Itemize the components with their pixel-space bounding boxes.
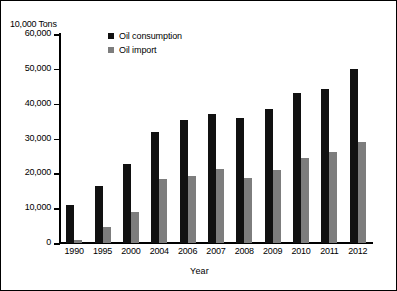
bar-group: [151, 34, 167, 243]
bar-group: [123, 34, 139, 243]
x-axis-tick-label: 2006: [175, 246, 201, 256]
x-axis-tick-label: 2004: [146, 246, 172, 256]
x-axis-tick-labels: 1990199520002004200620072008200920102011…: [60, 246, 372, 256]
x-axis-tick-label: 2000: [118, 246, 144, 256]
bar-group: [208, 34, 224, 243]
bar-group: [66, 34, 82, 243]
x-axis-tick-label: 2011: [316, 246, 342, 256]
legend-label: Oil import: [119, 45, 157, 55]
bar-group: [265, 34, 281, 243]
bar-import[interactable]: [159, 179, 167, 243]
y-axis-tick-label: 0: [46, 237, 51, 247]
bar-import[interactable]: [216, 169, 224, 243]
x-axis-tick-label: 1990: [61, 246, 87, 256]
y-axis-tick-label: 50,000: [25, 63, 51, 73]
x-axis-tick-label: 2008: [231, 246, 257, 256]
chart-figure: 10,000 Tons 60,00050,00040,00030,00020,0…: [0, 0, 397, 291]
bar-consumption[interactable]: [66, 205, 74, 243]
x-axis-tick-label: 2010: [288, 246, 314, 256]
y-axis-tick-label: 40,000: [25, 98, 51, 108]
bar-import[interactable]: [244, 178, 252, 243]
bar-import[interactable]: [301, 158, 309, 243]
legend-item[interactable]: Oil consumption: [108, 31, 182, 41]
bar-consumption[interactable]: [208, 114, 216, 243]
x-axis-tick-label: 2007: [203, 246, 229, 256]
bar-groups: [60, 34, 372, 243]
bar-import[interactable]: [329, 152, 337, 243]
x-axis-tick-label: 2012: [345, 246, 371, 256]
y-axis-tick-mark: [54, 243, 60, 245]
bar-group: [321, 34, 337, 243]
legend-swatch-icon: [108, 33, 114, 39]
bar-group: [236, 34, 252, 243]
legend-label: Oil consumption: [119, 31, 182, 41]
bar-consumption[interactable]: [151, 132, 159, 243]
bar-consumption[interactable]: [95, 186, 103, 243]
legend-item[interactable]: Oil import: [108, 45, 182, 55]
y-axis-tick-label: 60,000: [25, 28, 51, 38]
bar-group: [95, 34, 111, 243]
bar-import[interactable]: [188, 176, 196, 243]
x-axis-title: Year: [1, 266, 397, 276]
bar-consumption[interactable]: [265, 109, 273, 243]
x-axis-tick-label: 1995: [90, 246, 116, 256]
y-axis-tick-label: 30,000: [25, 133, 51, 143]
bar-consumption[interactable]: [350, 69, 358, 243]
y-axis-tick-label: 10,000: [25, 202, 51, 212]
bar-group: [350, 34, 366, 243]
y-axis-tick-label: 20,000: [25, 167, 51, 177]
x-axis-tick-label: 2009: [260, 246, 286, 256]
bar-import[interactable]: [103, 227, 111, 243]
bar-consumption[interactable]: [180, 120, 188, 243]
bar-consumption[interactable]: [293, 93, 301, 243]
bar-consumption[interactable]: [236, 118, 244, 243]
bar-import[interactable]: [74, 240, 82, 243]
bar-consumption[interactable]: [321, 89, 329, 243]
bar-import[interactable]: [358, 142, 366, 243]
bar-group: [180, 34, 196, 243]
chart-legend: Oil consumptionOil import: [108, 31, 182, 55]
bar-consumption[interactable]: [123, 164, 131, 243]
bar-group: [293, 34, 309, 243]
legend-swatch-icon: [108, 47, 114, 53]
bar-import[interactable]: [131, 212, 139, 243]
bar-import[interactable]: [273, 170, 281, 243]
